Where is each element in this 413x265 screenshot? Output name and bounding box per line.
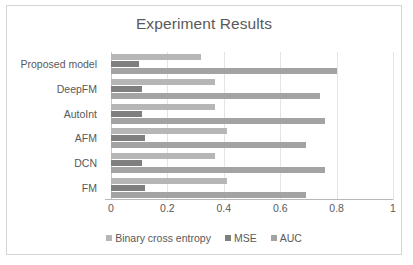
bar	[111, 167, 325, 173]
x-tick-label: 0.2	[160, 202, 175, 214]
gridline	[393, 52, 394, 200]
bar-group	[111, 151, 393, 176]
legend-swatch-icon	[271, 235, 277, 241]
bar	[111, 93, 320, 99]
legend-item[interactable]: Binary cross entropy	[106, 232, 211, 244]
bar	[111, 86, 142, 92]
plot-inner	[111, 52, 393, 200]
bar	[111, 79, 215, 85]
bar	[111, 192, 306, 198]
bar	[111, 153, 215, 159]
bar	[111, 160, 142, 166]
bar	[111, 118, 325, 124]
category-label: Proposed model	[21, 58, 97, 70]
plot-area	[105, 52, 393, 200]
x-tick-label: 1	[390, 202, 396, 214]
legend-swatch-icon	[106, 235, 112, 241]
x-tick-label: 0.8	[329, 202, 344, 214]
bar	[111, 111, 142, 117]
bar	[111, 128, 227, 134]
category-label: AutoInt	[64, 108, 97, 120]
bar	[111, 135, 145, 141]
bar	[111, 185, 145, 191]
x-axis-line	[105, 199, 393, 200]
bar-group	[111, 101, 393, 126]
category-label: FM	[82, 182, 97, 194]
bar-group	[111, 175, 393, 200]
chart-legend: Binary cross entropyMSEAUC	[7, 232, 401, 244]
legend-label: AUC	[280, 232, 302, 244]
bar-group	[111, 126, 393, 151]
bar-group	[111, 52, 393, 77]
bar	[111, 104, 215, 110]
category-axis-labels: Proposed modelDeepFMAutoIntAFMDCNFM	[7, 52, 103, 200]
x-tick-label: 0	[108, 202, 114, 214]
bar	[111, 178, 227, 184]
category-label: DeepFM	[57, 83, 97, 95]
x-tick-label: 0.4	[216, 202, 231, 214]
bar	[111, 54, 201, 60]
x-axis-tick-labels: 00.20.40.60.81	[105, 202, 393, 218]
legend-label: MSE	[234, 232, 257, 244]
bar	[111, 142, 306, 148]
legend-item[interactable]: AUC	[271, 232, 302, 244]
legend-item[interactable]: MSE	[225, 232, 257, 244]
bar	[111, 68, 337, 74]
bar-group	[111, 77, 393, 102]
bar	[111, 61, 139, 67]
category-label: AFM	[75, 132, 97, 144]
chart-screenshot: Experiment Results Proposed modelDeepFMA…	[0, 0, 413, 265]
category-label: DCN	[74, 157, 97, 169]
chart-title: Experiment Results	[7, 15, 401, 33]
legend-swatch-icon	[225, 235, 231, 241]
legend-label: Binary cross entropy	[115, 232, 211, 244]
x-tick-label: 0.6	[273, 202, 288, 214]
chart-frame: Experiment Results Proposed modelDeepFMA…	[6, 5, 402, 255]
